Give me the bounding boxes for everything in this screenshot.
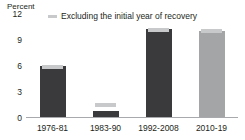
y-axis-tick-label: 12	[0, 10, 22, 18]
x-axis-tick-label: 1992-2008	[132, 123, 185, 133]
bar-excluding-initial-year-marker	[148, 28, 170, 32]
bar-excluding-initial-year-marker	[201, 29, 223, 33]
y-axis-tick-label: 6	[0, 62, 22, 70]
bar-total	[146, 29, 172, 117]
plot-area	[26, 14, 238, 118]
bar-total	[199, 31, 225, 117]
bar-total	[93, 111, 119, 117]
bar-excluding-initial-year-marker	[42, 65, 64, 69]
bar-chart: Percent Excluding the initial year of re…	[0, 0, 245, 140]
x-axis-tick-label: 1976-81	[26, 123, 79, 133]
bar-total	[40, 66, 66, 117]
bar-group	[40, 13, 66, 117]
x-axis-tick-label: 1983-90	[79, 123, 132, 133]
bar-group	[93, 13, 119, 117]
x-axis-baseline	[26, 117, 238, 118]
x-axis-tick-label: 2010-19	[185, 123, 238, 133]
y-axis-tick-label: 0	[0, 114, 22, 122]
y-axis-tick-label: 3	[0, 88, 22, 96]
bar-group	[146, 13, 172, 117]
bar-group	[199, 13, 225, 117]
bar-excluding-initial-year-marker	[95, 103, 117, 107]
y-axis-tick-label: 9	[0, 36, 22, 44]
